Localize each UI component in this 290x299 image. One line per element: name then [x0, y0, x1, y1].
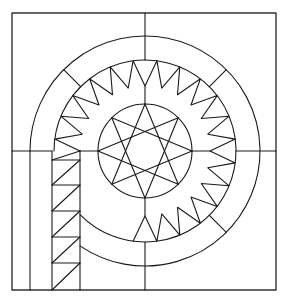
strip-diagonal-2 — [52, 185, 80, 211]
outer-ring-radial-1 — [64, 70, 81, 87]
strip-diagonal-0 — [52, 151, 80, 160]
strip-diagonal-3 — [52, 211, 80, 237]
sawtooth-triangle-strip — [30, 151, 80, 290]
quilt-pattern-diagram — [0, 0, 290, 299]
strip-diagonal-1 — [52, 160, 80, 185]
strip-diagonal-4 — [52, 237, 80, 263]
outer-ring-radial-2 — [209, 215, 226, 232]
outer-ring-radial-0 — [209, 70, 226, 87]
eight-pointed-star — [98, 104, 192, 198]
strip-diagonal-5 — [52, 263, 80, 290]
pattern-svg — [0, 0, 290, 299]
